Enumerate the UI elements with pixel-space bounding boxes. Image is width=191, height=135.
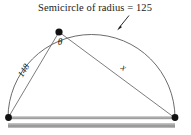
figure-canvas: Semicircle of radius = 125 148 x θ [0, 0, 191, 135]
ground-bar-highlight [8, 124, 175, 125]
left-chord-label: 148 [16, 62, 32, 79]
right-chord-line [59, 32, 175, 118]
figure-caption: Semicircle of radius = 125 [38, 2, 152, 13]
apex-vertex-dot [55, 28, 62, 35]
right-chord-label: x [118, 62, 129, 74]
left-chord-line [8, 32, 59, 118]
left-vertex-dot [5, 114, 12, 121]
caption-pointer-arrow-head [117, 26, 122, 31]
right-vertex-dot [172, 114, 179, 121]
apex-angle-label: θ [58, 37, 63, 47]
semicircle-geometry-figure: Semicircle of radius = 125 148 x θ [0, 0, 191, 135]
diameter-bar-highlight [8, 117, 175, 118]
